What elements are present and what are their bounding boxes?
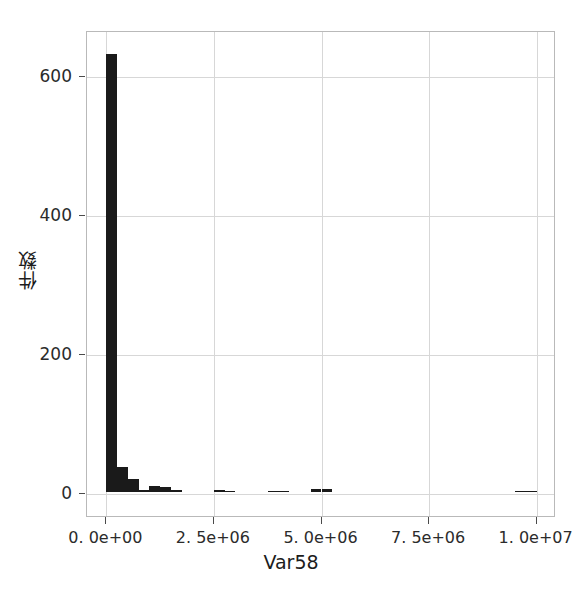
gridline-y-600 (87, 77, 554, 78)
gridline-x-1 (214, 32, 215, 516)
x-tick-mark (536, 517, 537, 524)
y-tick-label: 600 (20, 66, 72, 86)
histogram-bar (311, 489, 322, 492)
y-axis-title: 件数 (14, 250, 41, 290)
gridline-y-200 (87, 355, 554, 356)
histogram-bar (526, 491, 537, 492)
y-tick-label: 200 (20, 344, 72, 364)
histogram-bar (214, 490, 225, 491)
histogram-bar (268, 491, 279, 492)
x-tick-mark (321, 517, 322, 524)
x-tick-label: 1. 0e+07 (499, 528, 573, 547)
gridline-x-4 (537, 32, 538, 516)
x-axis-title: Var58 (0, 551, 582, 573)
gridline-y-400 (87, 216, 554, 217)
y-tick-label: 0 (20, 483, 72, 503)
histogram-figure: 0200400600 0. 0e+002. 5e+065. 0e+067. 5e… (0, 0, 582, 593)
x-tick-label: 2. 5e+06 (176, 528, 250, 547)
x-tick-mark (105, 517, 106, 524)
gridline-y-0 (87, 494, 554, 495)
histogram-bar (515, 491, 526, 492)
histogram-bar (322, 489, 333, 492)
histogram-bar (106, 54, 117, 492)
x-tick-label: 0. 0e+00 (68, 528, 142, 547)
gridline-x-2 (322, 32, 323, 516)
x-tick-mark (428, 517, 429, 524)
histogram-bar (278, 491, 289, 492)
gridline-x-3 (429, 32, 430, 516)
histogram-bar (117, 467, 128, 491)
histogram-bar (149, 486, 160, 492)
histogram-bar (139, 490, 150, 492)
y-tick-mark (79, 76, 85, 77)
histogram-bar (160, 487, 171, 492)
x-tick-mark (213, 517, 214, 524)
x-tick-label: 7. 5e+06 (391, 528, 465, 547)
histogram-bar (128, 479, 139, 492)
plot-area (86, 31, 555, 517)
y-tick-mark (79, 493, 85, 494)
histogram-bar (225, 491, 236, 492)
x-tick-label: 5. 0e+06 (283, 528, 357, 547)
y-tick-mark (79, 354, 85, 355)
y-tick-mark (79, 215, 85, 216)
histogram-bar (171, 490, 182, 491)
y-tick-label: 400 (20, 205, 72, 225)
